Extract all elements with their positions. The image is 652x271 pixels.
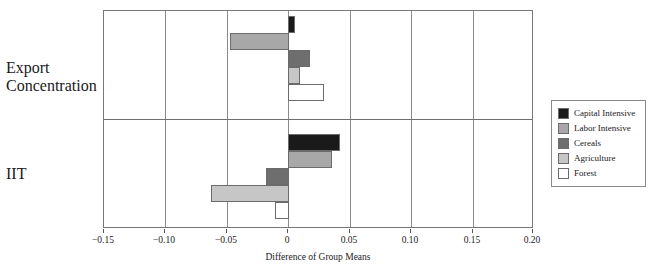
bar-export-concentration-labor-intensive xyxy=(230,33,289,50)
legend-label-forest: Forest xyxy=(574,168,597,179)
legend-swatch-forest xyxy=(558,168,569,179)
bar-export-concentration-cereals xyxy=(288,50,310,67)
xtick-mark-0.20 xyxy=(532,229,533,233)
bar-iit-cereals xyxy=(266,168,289,185)
bar-iit-agriculture xyxy=(211,185,289,202)
legend-item-agriculture: Agriculture xyxy=(558,151,640,166)
xtick-label--0.15: −0.15 xyxy=(92,234,114,246)
xtick-mark-0 xyxy=(287,229,288,233)
legend-label-capital-intensive: Capital Intensive xyxy=(574,108,635,119)
chart-legend: Capital Intensive Labor Intensive Cereal… xyxy=(551,100,646,187)
plot-area xyxy=(103,10,533,228)
gridline-horizontal-category-separator xyxy=(104,119,532,120)
xtick-mark-0.05 xyxy=(349,229,350,233)
xtick-label--0.10: −0.10 xyxy=(153,234,175,246)
x-axis-ticks: −0.15 −0.10 −0.05 0 0.05 0.10 0.15 0.20 xyxy=(103,229,533,247)
bar-iit-forest xyxy=(275,202,289,219)
legend-label-agriculture: Agriculture xyxy=(574,153,615,164)
xtick-mark--0.15 xyxy=(103,229,104,233)
legend-item-labor-intensive: Labor Intensive xyxy=(558,121,640,136)
legend-item-forest: Forest xyxy=(558,166,640,181)
legend-item-capital-intensive: Capital Intensive xyxy=(558,106,640,121)
xtick-mark--0.10 xyxy=(164,229,165,233)
chart-figure: Export Concentration IIT xyxy=(0,0,652,271)
xtick-label-0.10: 0.10 xyxy=(402,234,419,246)
bar-export-concentration-capital-intensive xyxy=(288,16,295,33)
y-category-label-export-concentration: Export Concentration xyxy=(6,59,99,95)
xtick-mark--0.05 xyxy=(226,229,227,233)
legend-label-labor-intensive: Labor Intensive xyxy=(574,123,631,134)
xtick-label--0.05: −0.05 xyxy=(215,234,237,246)
bar-export-concentration-forest xyxy=(288,84,324,101)
xtick-mark-0.10 xyxy=(410,229,411,233)
legend-label-cereals: Cereals xyxy=(574,138,601,149)
legend-swatch-agriculture xyxy=(558,153,569,164)
x-axis-title: Difference of Group Means xyxy=(103,251,533,263)
y-category-label-iit: IIT xyxy=(6,165,26,183)
xtick-label-0.15: 0.15 xyxy=(464,234,481,246)
xtick-mark-0.15 xyxy=(472,229,473,233)
legend-item-cereals: Cereals xyxy=(558,136,640,151)
y-axis-category-labels: Export Concentration IIT xyxy=(0,0,99,271)
legend-swatch-cereals xyxy=(558,138,569,149)
bar-iit-labor-intensive xyxy=(288,151,332,168)
xtick-label-0: 0 xyxy=(285,234,290,246)
legend-swatch-capital-intensive xyxy=(558,108,569,119)
xtick-label-0.20: 0.20 xyxy=(524,234,541,246)
xtick-label-0.05: 0.05 xyxy=(341,234,358,246)
bar-export-concentration-agriculture xyxy=(288,67,300,84)
bar-iit-capital-intensive xyxy=(288,134,340,151)
legend-swatch-labor-intensive xyxy=(558,123,569,134)
